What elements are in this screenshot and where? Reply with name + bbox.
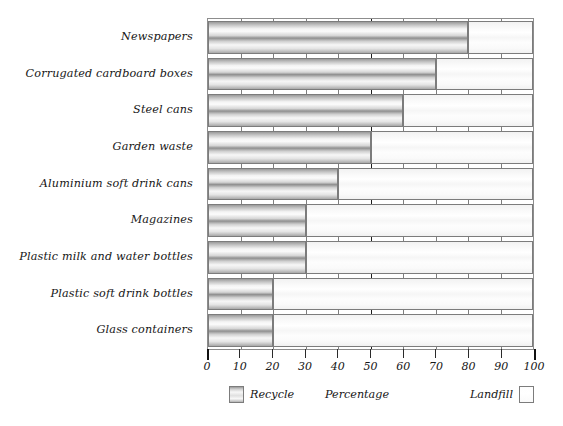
category-label: Newspapers bbox=[0, 18, 200, 55]
x-tick-label: 70 bbox=[429, 360, 443, 373]
bar-row bbox=[208, 56, 533, 93]
legend-swatch-recycle-icon bbox=[229, 386, 244, 403]
bar-segment-landfill bbox=[468, 21, 533, 54]
x-tick-label: 50 bbox=[364, 360, 378, 373]
category-label: Garden waste bbox=[0, 128, 200, 165]
x-tick-mark bbox=[403, 349, 404, 358]
bar-segment-landfill bbox=[306, 204, 534, 237]
bar-segment-recycle bbox=[208, 21, 468, 54]
x-tick-label: 30 bbox=[298, 360, 312, 373]
category-label: Glass containers bbox=[0, 311, 200, 348]
category-label: Aluminium soft drink cans bbox=[0, 165, 200, 202]
x-axis: 0102030405060708090100 bbox=[207, 349, 534, 381]
bar-row bbox=[208, 239, 533, 276]
x-tick-mark bbox=[435, 349, 436, 358]
x-tick-label: 40 bbox=[331, 360, 345, 373]
bar-segment-recycle bbox=[208, 94, 403, 127]
category-label: Corrugated cardboard boxes bbox=[0, 55, 200, 92]
x-axis-title: Percentage bbox=[325, 388, 389, 401]
bar-row bbox=[208, 166, 533, 203]
legend-label-landfill: Landfill bbox=[470, 388, 513, 401]
chart-legend: Recycle Percentage Landfill bbox=[207, 386, 534, 408]
bar-row bbox=[208, 312, 533, 349]
x-tick-label: 20 bbox=[265, 360, 279, 373]
x-tick-mark bbox=[207, 349, 209, 360]
bar-segment-landfill bbox=[273, 314, 533, 347]
x-tick-mark bbox=[501, 349, 502, 358]
plot-area bbox=[207, 18, 534, 350]
category-label: Steel cans bbox=[0, 91, 200, 128]
x-tick-mark bbox=[370, 349, 371, 358]
bar-row bbox=[208, 276, 533, 313]
x-tick-mark bbox=[272, 349, 273, 358]
x-tick-mark bbox=[337, 349, 338, 358]
x-tick-label: 100 bbox=[524, 360, 545, 373]
bar-segment-landfill bbox=[306, 241, 534, 274]
bar-segment-landfill bbox=[436, 58, 534, 91]
recycling-percentage-bar-chart: Newspapers Corrugated cardboard boxes St… bbox=[0, 0, 563, 426]
bar-segment-recycle bbox=[208, 241, 306, 274]
x-tick-mark bbox=[305, 349, 306, 358]
bar-segment-recycle bbox=[208, 314, 273, 347]
category-axis-labels: Newspapers Corrugated cardboard boxes St… bbox=[0, 18, 200, 348]
x-tick-mark bbox=[239, 349, 240, 358]
bar-segment-recycle bbox=[208, 131, 371, 164]
category-label: Plastic soft drink bottles bbox=[0, 275, 200, 312]
x-tick-label: 60 bbox=[396, 360, 410, 373]
bar-segment-landfill bbox=[273, 278, 533, 311]
legend-label-recycle: Recycle bbox=[250, 388, 294, 401]
x-tick-mark bbox=[468, 349, 469, 358]
bar-segment-recycle bbox=[208, 168, 338, 201]
x-tick-label: 0 bbox=[204, 360, 211, 373]
bar-row bbox=[208, 202, 533, 239]
bar-row bbox=[208, 92, 533, 129]
bar-segment-landfill bbox=[403, 94, 533, 127]
x-axis-title-text: Percentage bbox=[325, 388, 389, 401]
bar-segment-recycle bbox=[208, 278, 273, 311]
x-tick-label: 90 bbox=[494, 360, 508, 373]
category-label: Magazines bbox=[0, 201, 200, 238]
x-tick-label: 80 bbox=[462, 360, 476, 373]
bar-series-container bbox=[208, 19, 533, 349]
x-tick-label: 10 bbox=[233, 360, 247, 373]
bar-segment-landfill bbox=[338, 168, 533, 201]
x-tick-mark bbox=[534, 349, 536, 360]
legend-item-landfill: Landfill bbox=[470, 386, 534, 403]
bar-row bbox=[208, 129, 533, 166]
category-label: Plastic milk and water bottles bbox=[0, 238, 200, 275]
bar-segment-landfill bbox=[371, 131, 534, 164]
legend-item-recycle: Recycle bbox=[229, 386, 294, 403]
bar-segment-recycle bbox=[208, 58, 436, 91]
legend-swatch-landfill-icon bbox=[519, 386, 534, 403]
bar-segment-recycle bbox=[208, 204, 306, 237]
bar-row bbox=[208, 19, 533, 56]
